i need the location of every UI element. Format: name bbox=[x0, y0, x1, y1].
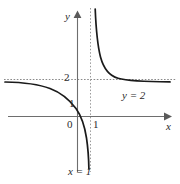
y-tick-label-1: 1 bbox=[69, 98, 75, 109]
y-axis-arrow-icon bbox=[74, 11, 82, 19]
function-graph-figure: y x 2 1 0 1 y = 2 x = 1 bbox=[0, 0, 180, 184]
origin-label: 0 bbox=[67, 119, 73, 130]
curve-branch-upper-right bbox=[95, 9, 170, 82]
graph-canvas bbox=[0, 0, 180, 184]
y-tick-label-2: 2 bbox=[64, 72, 70, 83]
y-axis-label: y bbox=[65, 11, 70, 22]
curve-branch-lower-left bbox=[5, 82, 89, 169]
horizontal-asymptote-label: y = 2 bbox=[122, 90, 145, 101]
vertical-asymptote-label: x = 1 bbox=[68, 166, 91, 177]
x-axis-label: x bbox=[166, 121, 171, 132]
x-tick-label-1: 1 bbox=[93, 119, 99, 130]
